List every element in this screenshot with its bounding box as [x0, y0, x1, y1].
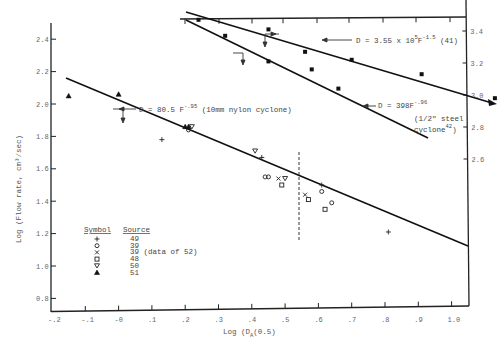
legend: SymbolSource493939 (data of 52)485051	[84, 226, 198, 277]
x-tick-label: .1	[148, 316, 156, 324]
x-tick-label: 1.0	[448, 316, 461, 324]
legend-source: 51	[130, 269, 140, 277]
y-tick-label: 1.4	[36, 198, 49, 206]
annotation-exponent: -.95	[184, 103, 197, 110]
right-axis-data-point	[350, 58, 354, 62]
data-point-square	[323, 207, 327, 211]
x-tick-label: -.1	[81, 316, 94, 324]
annotation-exponent: -.96	[414, 99, 427, 106]
right-axis-data-point	[223, 34, 227, 38]
annotation-text: (10mm nylon cyclone)	[197, 106, 292, 114]
y2-tick-label: 3.2	[471, 60, 484, 68]
legend-header-source: Source	[123, 226, 150, 234]
annotations: D = 80.5 F-.95 (10mm nylon cyclone) D = …	[139, 34, 464, 134]
x-tick-label: .5	[281, 316, 289, 324]
axes-frame	[51, 0, 469, 312]
data-point-x	[276, 177, 280, 181]
legend-symbol	[95, 257, 99, 261]
annotation-text: D = 398F	[378, 102, 414, 110]
data-point-triangleup	[116, 92, 121, 97]
legend-source: 39 (data of 52)	[130, 248, 198, 256]
x-tick-label: .2	[181, 316, 189, 324]
x-axis-title: Log (DA(0.5)	[223, 328, 276, 339]
y-tick-label: 2.2	[36, 68, 49, 76]
legend-symbol	[95, 237, 100, 242]
y-tick-label: 1.6	[36, 165, 49, 173]
arrow-icon	[121, 118, 125, 123]
y-tick-label: 2.0	[36, 101, 49, 109]
y2-tick-label: 2.8	[471, 124, 484, 132]
annotation-41: D = 3.55 x 105F-1.5 (41)	[356, 34, 458, 45]
data-point-square	[280, 183, 284, 187]
annotation-text: cyclone	[414, 126, 446, 134]
chart: 2.42.22.01.81.61.41.21.00.8 3.43.23.02.8…	[0, 0, 497, 353]
annotation-text: D = 80.5 F	[139, 106, 184, 114]
data-point-	[386, 229, 391, 234]
right-axis-data-point	[336, 87, 340, 91]
right-axis-data-point	[310, 67, 314, 71]
legend-symbol	[95, 244, 99, 248]
y-axis-title: Log (Flow rate, cm³/sec)	[15, 135, 23, 243]
annotation-text: (41)	[436, 37, 459, 45]
arrow-icon	[322, 38, 327, 42]
x-tick-label: .4	[248, 316, 256, 324]
arrow-icon	[263, 42, 267, 47]
annotation-nylon-cyclone: D = 80.5 F-.95 (10mm nylon cyclone)	[139, 103, 292, 114]
x-tick-label: .8	[381, 316, 389, 324]
right-axis	[466, 0, 469, 306]
y2-tick-label: 2.6	[472, 156, 485, 164]
x-axis-title-text: Log	[223, 328, 241, 336]
legend-symbol	[95, 264, 100, 268]
legend-header-symbol: Symbol	[84, 226, 112, 234]
annotation-text: )	[452, 126, 457, 134]
y-tick-label: 2.4	[36, 36, 49, 44]
y-tick-label: 1.8	[36, 133, 49, 141]
data-point-triangledown	[253, 149, 258, 153]
right-axis-data-point	[303, 50, 307, 54]
right-axis-data-point	[266, 27, 270, 31]
x-tick-label: .3	[215, 316, 223, 324]
data-point-triangledown	[283, 177, 288, 181]
data-point-o	[330, 201, 334, 205]
y-axis-ticks: 2.42.22.01.81.61.41.21.00.8	[36, 36, 56, 303]
data-point-	[319, 183, 324, 188]
right-axis-data-point	[266, 59, 270, 63]
y-tick-label: 1.2	[36, 230, 49, 238]
x-tick-label: -.2	[48, 316, 61, 324]
x-axis-title-text: (0.5)	[253, 328, 276, 336]
data-point-	[159, 137, 164, 142]
top-axis	[180, 17, 466, 19]
data-point-o	[320, 189, 324, 193]
annotation-42: D = 398F-.96	[378, 99, 427, 110]
legend-symbol	[95, 250, 99, 254]
bottom-axis	[51, 306, 469, 312]
y-tick-label: 0.8	[36, 295, 49, 303]
right-axis-data-point	[493, 96, 497, 100]
annotation-exponent: -1.5	[422, 34, 435, 41]
x-tick-label: .9	[414, 316, 422, 324]
x-axis-ticks: -.2-.1-0.1.2.3.4.5.6.7.8.91.0	[48, 301, 460, 324]
x-tick-label: .6	[314, 316, 322, 324]
arrow-icon	[241, 60, 245, 65]
data-point-triangleup	[66, 93, 71, 98]
right-axis-data-point	[197, 18, 201, 22]
annotation-superscript: 42	[446, 123, 453, 130]
y2-tick-label: 3.4	[470, 28, 483, 36]
data-point-x	[303, 193, 307, 197]
y-tick-label: 1.0	[36, 263, 49, 271]
arrow-icon	[271, 32, 276, 36]
right-axis-data-point	[420, 72, 424, 76]
legend-symbol	[95, 270, 100, 275]
x-tick-label: -0	[115, 316, 123, 324]
annotation-text: D = 3.55 x 10	[356, 37, 415, 45]
data-point-square	[306, 198, 310, 202]
annotation-42-line3: cyclone42)	[414, 123, 457, 134]
x-tick-label: .7	[348, 316, 356, 324]
annotation-42-line2: (1/2" steel	[414, 115, 464, 123]
